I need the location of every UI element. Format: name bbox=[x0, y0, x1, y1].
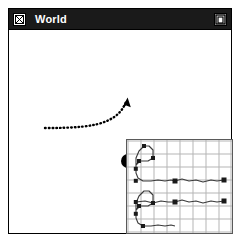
close-box-icon[interactable] bbox=[13, 13, 26, 26]
window-titlebar[interactable]: World bbox=[9, 9, 231, 30]
app-root: World bbox=[0, 0, 240, 248]
minimap-node bbox=[137, 204, 141, 208]
maximize-box-icon[interactable] bbox=[214, 13, 227, 26]
minimap-node bbox=[151, 156, 155, 160]
minimap-node bbox=[222, 178, 227, 183]
arrowhead-icon bbox=[122, 98, 130, 108]
minimap-node bbox=[134, 212, 138, 216]
minimap-vector-layer bbox=[127, 140, 232, 233]
minimap-node bbox=[173, 179, 178, 184]
minimap-panel[interactable] bbox=[126, 139, 233, 234]
window-title: World bbox=[35, 14, 67, 25]
minimap-node bbox=[134, 179, 138, 183]
minimap-node bbox=[151, 201, 155, 205]
minimap-node bbox=[137, 159, 141, 163]
minimap-node bbox=[222, 199, 227, 204]
minimap-node bbox=[173, 200, 178, 205]
minimap-node bbox=[134, 200, 138, 204]
minimap-node bbox=[142, 144, 146, 148]
minimap-grid bbox=[127, 140, 232, 233]
minimap-node bbox=[134, 167, 138, 171]
minimap-node bbox=[141, 224, 145, 228]
dotted-trajectory-arrow bbox=[45, 98, 131, 129]
